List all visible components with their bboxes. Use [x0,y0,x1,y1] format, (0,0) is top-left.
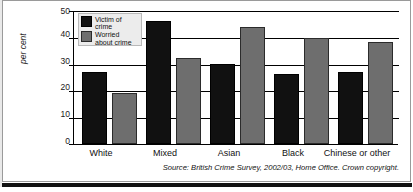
legend-swatch-victim-of-crime [81,16,92,27]
bar-mixed-victim-of-crime[interactable] [146,21,171,144]
bar-group-black [274,10,334,144]
y-axis-title: per cent [18,33,28,64]
y-tickmark-40 [69,38,74,39]
bar-group-chinese-or-other [338,10,398,144]
bar-black-worried-about-crime[interactable] [304,38,329,144]
legend-label-victim-line1: Victim of [95,16,122,23]
legend-item-victim-of-crime[interactable]: Victim of crime [81,16,139,30]
x-label-chinese-or-other: Chinese or other [312,148,402,158]
source-note: Source: British Crime Survey, 2002/03, H… [0,163,399,172]
bar-white-worried-about-crime[interactable] [112,93,137,144]
chart-figure: per cent 0 10 20 30 40 50 [0,0,413,192]
legend-swatch-worried-about-crime [81,31,92,42]
bar-asian-worried-about-crime[interactable] [240,27,265,144]
legend-label-victim-line2: crime [95,23,122,30]
bar-black-victim-of-crime[interactable] [274,74,299,144]
y-tickmark-20 [69,91,74,92]
y-tick-40: 40 [61,30,70,38]
bar-chinese-or-other-victim-of-crime[interactable] [338,72,363,144]
chart-legend: Victim of crime Worried about crime [78,13,142,46]
legend-item-worried-about-crime[interactable]: Worried about crime [81,31,139,45]
bar-white-victim-of-crime[interactable] [82,72,107,144]
legend-label-worried-about-crime: Worried about crime [95,31,132,45]
bar-chinese-or-other-worried-about-crime[interactable] [368,42,393,144]
y-tickmark-30 [69,65,74,66]
y-tickmark-50 [69,11,74,12]
y-tickmark-0 [69,144,74,145]
y-tick-30: 30 [61,57,70,65]
legend-label-victim-of-crime: Victim of crime [95,16,122,30]
y-tick-10: 10 [61,110,70,118]
y-tickmark-10 [69,118,74,119]
y-tick-20: 20 [61,83,70,91]
legend-label-worried-line2: about crime [95,39,132,46]
bar-group-mixed [146,10,206,144]
bar-asian-victim-of-crime[interactable] [210,64,235,144]
bar-mixed-worried-about-crime[interactable] [176,58,201,144]
bar-group-asian [210,10,270,144]
legend-label-worried-line1: Worried [95,31,132,38]
